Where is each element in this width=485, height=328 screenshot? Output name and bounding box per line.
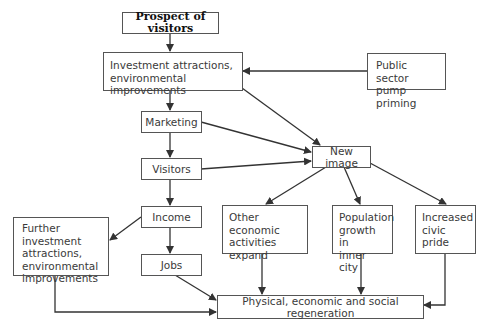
node-regeneration: Physical, economic and social regenerati… xyxy=(217,295,424,319)
node-label: Prospect of visitors xyxy=(129,11,212,36)
node-marketing: Marketing xyxy=(141,111,202,133)
node-income: Income xyxy=(141,206,202,228)
node-investment-attractions: Investment attractions, environmental im… xyxy=(103,52,243,91)
arrow-newimage-civic xyxy=(370,163,446,204)
node-increased-civic-pride: Increased civic pride xyxy=(415,205,476,254)
node-population-growth: Population growth in inner city xyxy=(332,205,393,254)
flow-diagram: Prospect of visitors Investment attracti… xyxy=(0,0,485,328)
node-visitors: Visitors xyxy=(141,158,202,180)
arrow-income-further xyxy=(110,217,141,240)
arrow-visitors-newimage xyxy=(201,161,311,169)
arrow-newimage-population xyxy=(344,167,360,204)
arrow-jobs-regeneration xyxy=(175,275,216,300)
node-jobs: Jobs xyxy=(141,254,202,276)
arrow-civic-regeneration xyxy=(424,253,445,305)
node-prospect-of-visitors: Prospect of visitors xyxy=(122,12,219,34)
node-further-investment: Further investment attractions, environm… xyxy=(13,217,109,276)
arrow-newimage-other xyxy=(266,167,326,204)
node-new-image: New image xyxy=(312,146,371,168)
node-other-economic-activities: Other economic activities expand xyxy=(222,205,308,254)
node-public-sector-pump-priming: Public sector pump priming xyxy=(367,53,446,90)
